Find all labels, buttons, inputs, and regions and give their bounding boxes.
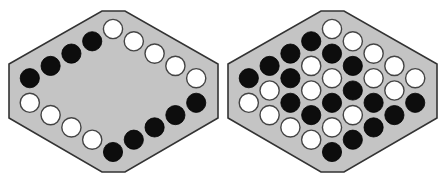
black-piece bbox=[145, 118, 164, 137]
white-piece bbox=[302, 81, 321, 100]
right-board-svg bbox=[219, 0, 444, 181]
black-piece bbox=[322, 44, 341, 63]
white-piece bbox=[103, 19, 122, 38]
white-piece bbox=[83, 130, 102, 149]
black-piece bbox=[166, 106, 185, 125]
white-piece bbox=[322, 69, 341, 88]
black-piece bbox=[385, 106, 404, 125]
right-board bbox=[219, 0, 444, 181]
black-piece bbox=[281, 69, 300, 88]
white-piece bbox=[260, 106, 279, 125]
white-piece bbox=[364, 69, 383, 88]
black-piece bbox=[322, 142, 341, 161]
black-piece bbox=[41, 56, 60, 75]
white-piece bbox=[322, 19, 341, 38]
white-piece bbox=[124, 32, 143, 51]
black-piece bbox=[343, 56, 362, 75]
white-piece bbox=[302, 130, 321, 149]
black-piece bbox=[124, 130, 143, 149]
black-piece bbox=[302, 106, 321, 125]
black-piece bbox=[62, 44, 81, 63]
white-piece bbox=[41, 106, 60, 125]
white-piece bbox=[187, 69, 206, 88]
white-piece bbox=[343, 106, 362, 125]
white-piece bbox=[145, 44, 164, 63]
white-piece bbox=[62, 118, 81, 137]
left-board-svg bbox=[0, 0, 230, 181]
left-board bbox=[0, 0, 230, 181]
white-piece bbox=[385, 56, 404, 75]
black-piece bbox=[83, 32, 102, 51]
white-piece bbox=[166, 56, 185, 75]
black-piece bbox=[302, 32, 321, 51]
black-piece bbox=[281, 44, 300, 63]
black-piece bbox=[364, 118, 383, 137]
white-piece bbox=[322, 118, 341, 137]
black-piece bbox=[322, 93, 341, 112]
white-piece bbox=[364, 44, 383, 63]
white-piece bbox=[281, 118, 300, 137]
black-piece bbox=[260, 56, 279, 75]
white-piece bbox=[20, 93, 39, 112]
white-piece bbox=[385, 81, 404, 100]
black-piece bbox=[406, 93, 425, 112]
black-piece bbox=[103, 142, 122, 161]
black-piece bbox=[281, 93, 300, 112]
black-piece bbox=[343, 130, 362, 149]
white-piece bbox=[406, 69, 425, 88]
white-piece bbox=[239, 93, 258, 112]
black-piece bbox=[364, 93, 383, 112]
white-piece bbox=[260, 81, 279, 100]
white-piece bbox=[302, 56, 321, 75]
black-piece bbox=[239, 69, 258, 88]
white-piece bbox=[343, 32, 362, 51]
black-piece bbox=[343, 81, 362, 100]
black-piece bbox=[187, 93, 206, 112]
black-piece bbox=[20, 69, 39, 88]
